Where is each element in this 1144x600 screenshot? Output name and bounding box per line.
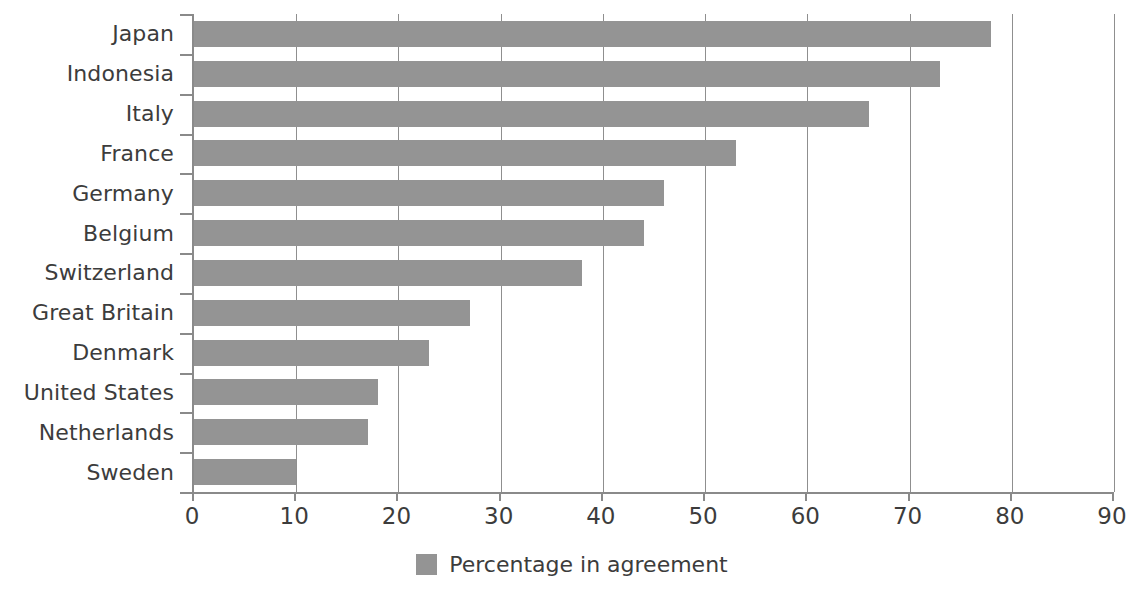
y-axis-tick [180, 452, 192, 454]
x-axis-label-50: 50 [688, 503, 717, 529]
x-axis-tick [1010, 492, 1012, 501]
bar-row [194, 253, 1112, 293]
bar-great-britain [194, 300, 470, 326]
bar-germany [194, 180, 664, 206]
x-axis-label-0: 0 [185, 503, 200, 529]
bar-row [194, 54, 1112, 94]
y-axis-tick [180, 14, 192, 16]
chart-legend: Percentage in agreement [0, 552, 1144, 577]
y-axis-tick [180, 213, 192, 215]
bar-row [194, 134, 1112, 174]
bar-united-states [194, 379, 378, 405]
x-axis-ticks [192, 492, 1112, 502]
x-axis-tick [192, 492, 194, 501]
bar-chart: JapanIndonesiaItalyFranceGermanyBelgiumS… [0, 0, 1144, 600]
y-axis-labels: JapanIndonesiaItalyFranceGermanyBelgiumS… [0, 14, 184, 492]
bar-row [194, 14, 1112, 54]
x-axis-tick [499, 492, 501, 501]
bar-japan [194, 21, 991, 47]
x-axis-tick [805, 492, 807, 501]
x-axis-labels: 0102030405060708090 [192, 503, 1112, 539]
y-axis-label-united-states: United States [24, 373, 174, 413]
bar-indonesia [194, 61, 940, 87]
gridline [1114, 14, 1115, 492]
bar-row [194, 452, 1112, 492]
bar-row [194, 94, 1112, 134]
y-axis-label-germany: Germany [72, 173, 174, 213]
y-axis-label-sweden: Sweden [86, 452, 174, 492]
bar-row [194, 213, 1112, 253]
bar-denmark [194, 340, 429, 366]
bar-rows [194, 14, 1112, 492]
bar-row [194, 333, 1112, 373]
bar-france [194, 140, 736, 166]
y-axis-tick [180, 253, 192, 255]
x-axis-label-90: 90 [1097, 503, 1126, 529]
bar-row [194, 173, 1112, 213]
bar-belgium [194, 220, 644, 246]
plot-area [192, 14, 1112, 492]
x-axis-label-30: 30 [484, 503, 513, 529]
y-axis-tick [180, 373, 192, 375]
y-axis-label-italy: Italy [126, 94, 174, 134]
x-axis-tick [396, 492, 398, 501]
x-axis-label-80: 80 [995, 503, 1024, 529]
bar-netherlands [194, 419, 368, 445]
y-axis-tick [180, 94, 192, 96]
bar-row [194, 412, 1112, 452]
legend-label: Percentage in agreement [449, 552, 727, 577]
y-axis-label-great-britain: Great Britain [32, 293, 174, 333]
y-axis-label-switzerland: Switzerland [45, 253, 174, 293]
y-axis-tick [180, 333, 192, 335]
x-axis-label-20: 20 [382, 503, 411, 529]
bar-italy [194, 101, 869, 127]
y-axis-tick [180, 134, 192, 136]
x-axis-label-70: 70 [893, 503, 922, 529]
y-axis-tick [180, 54, 192, 56]
x-axis-tick [908, 492, 910, 501]
y-axis-label-japan: Japan [112, 14, 174, 54]
y-axis-tick [180, 492, 192, 494]
x-axis-tick [601, 492, 603, 501]
bar-row [194, 293, 1112, 333]
x-axis-label-10: 10 [280, 503, 309, 529]
y-axis-tick [180, 412, 192, 414]
y-axis-label-netherlands: Netherlands [39, 412, 174, 452]
bar-row [194, 373, 1112, 413]
y-axis-label-france: France [100, 134, 174, 174]
y-axis-tick [180, 173, 192, 175]
y-axis-label-denmark: Denmark [72, 333, 174, 373]
x-axis-label-40: 40 [586, 503, 615, 529]
y-axis-tick [180, 293, 192, 295]
x-axis-label-60: 60 [791, 503, 820, 529]
y-axis-label-belgium: Belgium [83, 213, 174, 253]
legend-swatch-icon [416, 554, 437, 575]
bar-sweden [194, 459, 296, 485]
x-axis-tick [294, 492, 296, 501]
x-axis-tick [703, 492, 705, 501]
y-axis-label-indonesia: Indonesia [67, 54, 174, 94]
x-axis-tick [1112, 492, 1114, 501]
bar-switzerland [194, 260, 582, 286]
